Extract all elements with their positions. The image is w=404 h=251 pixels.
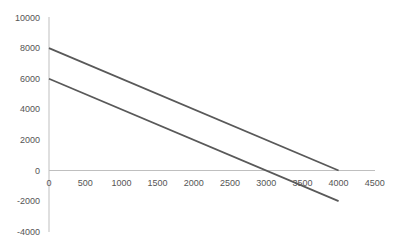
y-tick-label: 4000 [20,104,40,114]
x-tick-label: 4000 [329,178,349,188]
y-axis: 1000080006000400020000-2000-4000 [15,13,49,237]
x-tick-label: 1000 [111,178,131,188]
y-tick-label: 8000 [20,43,40,53]
y-tick-label: 0 [35,166,40,176]
y-tick-label: -2000 [17,196,40,206]
x-tick-label: 1500 [148,178,168,188]
x-tick-label: 0 [46,178,51,188]
x-tick-label: 2000 [184,178,204,188]
x-tick-label: 500 [78,178,93,188]
y-tick-label: 6000 [20,74,40,84]
x-tick-label: 2500 [220,178,240,188]
y-tick-label: -4000 [17,227,40,237]
y-tick-label: 2000 [20,135,40,145]
line-chart: 1000080006000400020000-2000-4000 0500100… [0,0,404,251]
series-line-1 [49,48,339,170]
x-tick-label: 4500 [365,178,385,188]
x-axis: 050010001500200025003000350040004500 [46,171,384,189]
x-tick-label: 3000 [256,178,276,188]
y-tick-label: 10000 [15,13,40,23]
